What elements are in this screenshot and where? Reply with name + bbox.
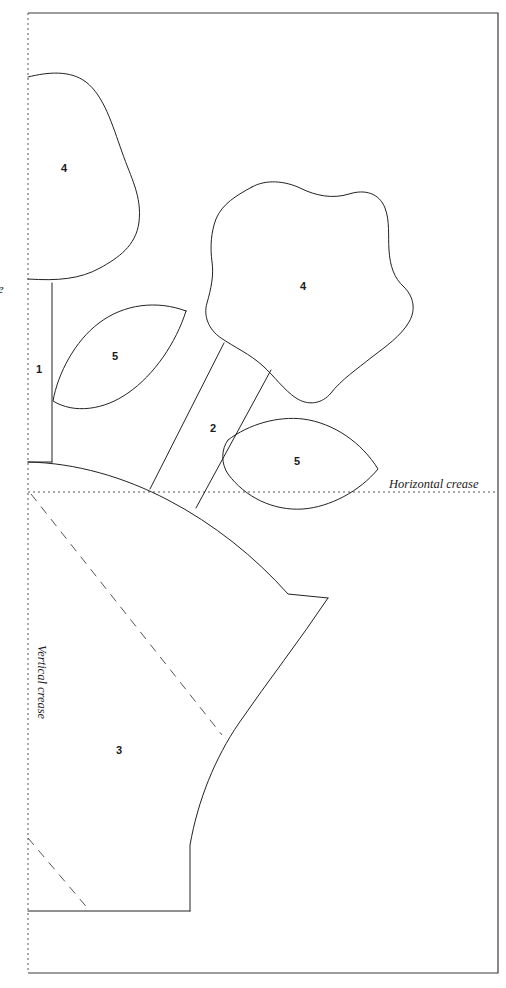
sheet-frame-border bbox=[28, 13, 498, 973]
piece-4a-flower-partial bbox=[28, 73, 140, 280]
piece-5b-leaf bbox=[223, 418, 378, 509]
piece-label-4a: 4 bbox=[61, 162, 68, 174]
piece-5a-leaf bbox=[53, 305, 186, 409]
piece-3-vase-outer-bottom bbox=[190, 598, 328, 911]
left-edge-text-fragment: e bbox=[0, 282, 4, 296]
piece-2-stem-strip bbox=[150, 343, 224, 489]
pattern-sheet: Horizontal crease Vertical crease e 1 2 … bbox=[0, 0, 506, 988]
piece-label-4b: 4 bbox=[300, 280, 307, 292]
piece-4b-flower bbox=[206, 182, 413, 403]
piece-label-2: 2 bbox=[210, 422, 216, 434]
piece-3-vase-outer-top bbox=[28, 462, 328, 598]
piece-3-dashed-crease-lower bbox=[28, 838, 90, 911]
piece-label-5b: 5 bbox=[294, 455, 300, 467]
piece-label-3: 3 bbox=[116, 744, 122, 756]
horizontal-crease-label: Horizontal crease bbox=[388, 477, 479, 491]
piece-2-stem-strip-right bbox=[196, 370, 271, 508]
piece-3-dashed-crease-upper bbox=[31, 494, 222, 735]
vertical-crease-label: Vertical crease bbox=[35, 645, 49, 720]
pattern-drawing: Horizontal crease Vertical crease e 1 2 … bbox=[0, 0, 506, 988]
piece-label-1: 1 bbox=[36, 363, 42, 375]
piece-label-5a: 5 bbox=[112, 350, 118, 362]
